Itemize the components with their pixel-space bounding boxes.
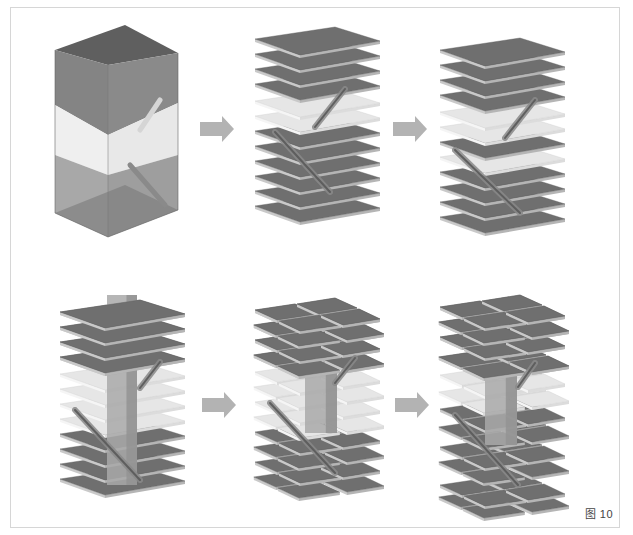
stages-group [55, 25, 569, 521]
arrow-3-icon [202, 392, 236, 418]
figure-caption: 图 10 [585, 505, 613, 521]
stage-6-shifted [439, 295, 569, 521]
arrow-2-icon [393, 116, 427, 142]
arrow-1-icon [200, 116, 234, 142]
diagram-canvas [0, 0, 633, 535]
stage-5-split [254, 298, 384, 501]
stage-4-core [60, 295, 185, 498]
stage-3-slabs [440, 38, 565, 236]
stage-1-volume [55, 25, 178, 237]
arrow-4-icon [395, 392, 429, 418]
stage-2-slabs [255, 27, 380, 225]
